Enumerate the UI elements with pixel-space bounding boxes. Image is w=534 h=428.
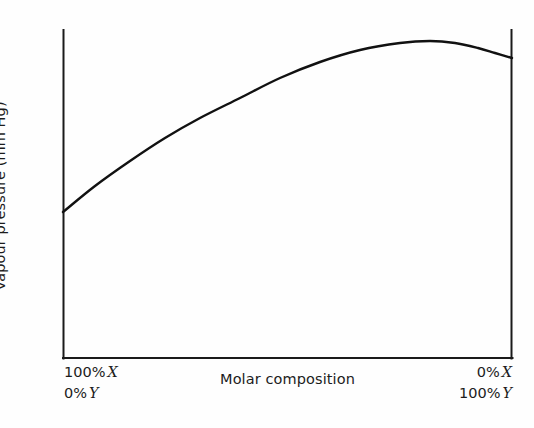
- y-axis-title: Vapour pressure (mm Hg): [0, 31, 13, 361]
- right-composition-x-row: 0%X: [459, 362, 512, 383]
- y-axis-title-text: Vapour pressure (mm Hg): [0, 101, 8, 290]
- left-axis-composition-labels: 100%X 0%Y: [64, 362, 118, 404]
- left-composition-x-row: 100%X: [64, 362, 118, 383]
- left-composition-x-symbol: X: [105, 364, 117, 380]
- figure-canvas: Vapour pressure (mm Hg) Molar compositio…: [0, 0, 534, 428]
- right-axis-composition-labels: 0%X 100%Y: [459, 362, 512, 404]
- right-composition-x-value: 0%: [477, 364, 500, 380]
- left-composition-x-value: 100%: [64, 364, 105, 380]
- right-composition-y-value: 100%: [459, 385, 500, 401]
- right-composition-y-row: 100%Y: [459, 383, 512, 404]
- right-composition-x-symbol: X: [500, 364, 512, 380]
- right-composition-y-symbol: Y: [500, 385, 512, 401]
- left-composition-y-symbol: Y: [87, 385, 99, 401]
- x-axis-title-text: Molar composition: [220, 371, 355, 387]
- left-composition-y-value: 0%: [64, 385, 87, 401]
- left-composition-y-row: 0%Y: [64, 383, 118, 404]
- x-axis-title: Molar composition: [63, 371, 512, 387]
